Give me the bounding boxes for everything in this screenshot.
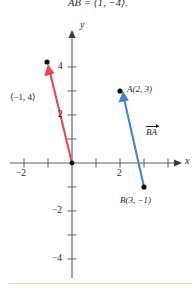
- y-tick-label-pos4: 4: [58, 62, 63, 72]
- y-axis-label: y: [80, 20, 84, 30]
- ba-vector-label: BA: [146, 127, 157, 137]
- red-vector-arrowhead: [44, 64, 54, 76]
- y-axis-arrowhead: [68, 30, 75, 38]
- bottom-divider: [8, 283, 192, 284]
- x-axis-arrowhead: [174, 159, 182, 166]
- point-a-marker: [117, 88, 122, 93]
- blue-vector-shaft: [125, 101, 144, 187]
- vector-component-label: ⟨−1, 4⟩: [10, 93, 36, 102]
- red-vector-endpoint: [44, 59, 49, 64]
- point-b-label: B(3, −1): [120, 196, 151, 205]
- point-b-marker: [141, 184, 146, 189]
- point-a-label: A(2, 3): [127, 85, 152, 94]
- origin-marker: [70, 161, 75, 166]
- ba-vector-overbar: BA: [146, 127, 157, 137]
- x-axis-label: x: [185, 156, 189, 166]
- x-tick-label-pos2: 2: [117, 169, 122, 179]
- coordinate-plane-svg: [0, 0, 196, 288]
- y-tick-label-pos2: 2: [58, 110, 63, 120]
- axes-group: [10, 30, 182, 278]
- vector-diagram-figure: AB = ⟨1, −4⟩.: [0, 0, 196, 288]
- y-tick-label-neg2: −2: [52, 206, 62, 216]
- y-tick-label-neg4: −4: [52, 254, 62, 264]
- x-tick-label-neg2: −2: [16, 169, 26, 179]
